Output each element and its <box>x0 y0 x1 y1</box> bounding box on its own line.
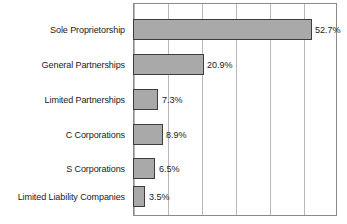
category-label: Limited Partnerships <box>6 89 125 110</box>
chart-row: S Corporations 6.5% <box>0 158 347 179</box>
category-label: General Partnerships <box>6 54 125 75</box>
bar-limited-liability-companies <box>133 186 145 207</box>
bar-limited-partnerships <box>133 89 158 110</box>
chart-row: Sole Proprietorship 52.7% <box>0 19 347 40</box>
bar-c-corporations <box>133 124 163 145</box>
category-label: Limited Liability Companies <box>6 186 125 207</box>
category-label: S Corporations <box>6 158 125 179</box>
value-label: 8.9% <box>166 124 187 145</box>
bar-chart: Sole Proprietorship 52.7% General Partne… <box>0 0 347 224</box>
value-label: 6.5% <box>159 158 180 179</box>
chart-row: Limited Partnerships 7.3% <box>0 89 347 110</box>
value-label: 20.9% <box>207 54 233 75</box>
chart-row: C Corporations 8.9% <box>0 124 347 145</box>
chart-row: Limited Liability Companies 3.5% <box>0 186 347 207</box>
bar-general-partnerships <box>133 54 204 75</box>
value-label: 7.3% <box>162 89 183 110</box>
bar-sole-proprietorship <box>133 19 312 40</box>
chart-row: General Partnerships 20.9% <box>0 54 347 75</box>
category-label: C Corporations <box>6 124 125 145</box>
value-label: 52.7% <box>315 19 341 40</box>
category-label: Sole Proprietorship <box>6 19 125 40</box>
bar-s-corporations <box>133 158 155 179</box>
value-label: 3.5% <box>149 186 170 207</box>
